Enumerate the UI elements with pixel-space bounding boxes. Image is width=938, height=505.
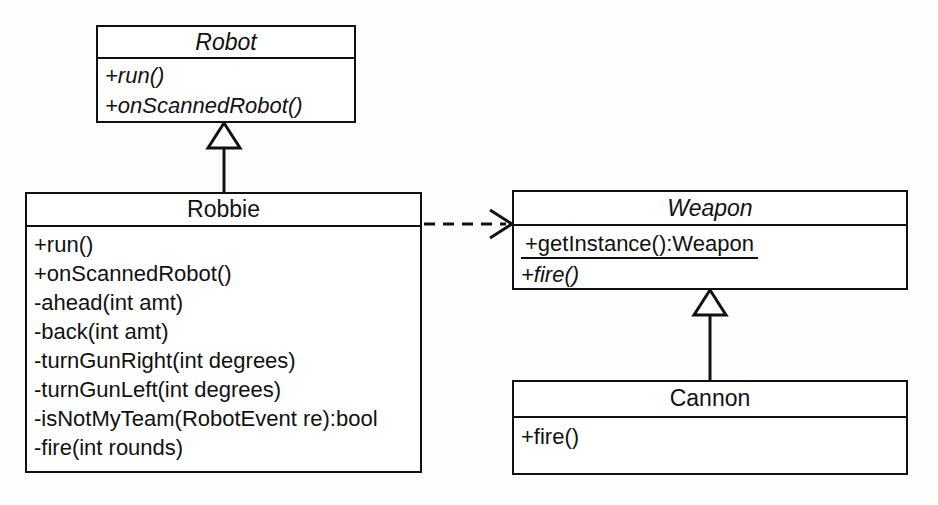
class-members-robbie: +run() +onScannedRobot() -ahead(int amt)…	[27, 227, 420, 466]
member-robbie-back: -back(int amt)	[34, 317, 420, 346]
class-members-weapon: +getInstance():Weapon +fire()	[514, 226, 906, 294]
generalization-cannon-to-weapon	[694, 290, 726, 380]
generalization-robbie-to-robot	[208, 123, 240, 192]
hollow-triangle-arrowhead-robot	[208, 123, 240, 148]
member-robbie-run: +run()	[34, 230, 420, 259]
member-robot-onscannedrobot: +onScannedRobot()	[105, 91, 354, 121]
uml-diagram-canvas: Robot +run() +onScannedRobot() Robbie +r…	[0, 0, 938, 505]
class-box-robot[interactable]: Robot +run() +onScannedRobot()	[96, 25, 356, 123]
member-robbie-turngunright: -turnGunRight(int degrees)	[34, 346, 420, 375]
member-robbie-fire: -fire(int rounds)	[34, 433, 420, 462]
member-robbie-ahead: -ahead(int amt)	[34, 288, 420, 317]
class-name-robbie: Robbie	[27, 194, 420, 227]
class-name-robot: Robot	[98, 27, 354, 59]
class-box-weapon[interactable]: Weapon +getInstance():Weapon +fire()	[512, 190, 908, 290]
class-box-cannon[interactable]: Cannon +fire()	[512, 380, 908, 475]
member-weapon-fire: +fire()	[521, 259, 906, 290]
member-robot-run: +run()	[105, 61, 354, 91]
class-box-robbie[interactable]: Robbie +run() +onScannedRobot() -ahead(i…	[25, 192, 422, 473]
member-robbie-isnotmyteam: -isNotMyTeam(RobotEvent re):bool	[34, 404, 420, 433]
dependency-robbie-to-weapon	[424, 210, 512, 238]
member-robbie-onscannedrobot: +onScannedRobot()	[34, 259, 420, 288]
class-name-weapon: Weapon	[514, 192, 906, 226]
member-weapon-getinstance: +getInstance():Weapon	[521, 228, 906, 259]
class-members-cannon: +fire()	[514, 418, 906, 456]
member-cannon-fire: +fire()	[521, 421, 906, 452]
class-members-robot: +run() +onScannedRobot()	[98, 59, 354, 125]
class-name-cannon: Cannon	[514, 382, 906, 418]
member-robbie-turngunleft: -turnGunLeft(int degrees)	[34, 375, 420, 404]
